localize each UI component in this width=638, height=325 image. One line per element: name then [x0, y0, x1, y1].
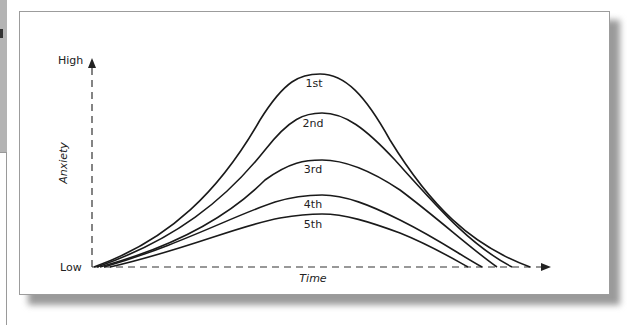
curve-label-4th: 4th [304, 198, 322, 211]
x-axis-arrow-icon [541, 263, 551, 271]
curve-label-3rd: 3rd [304, 163, 322, 176]
curve-label-2nd: 2nd [303, 117, 324, 130]
curve-label-1st: 1st [305, 77, 323, 90]
curve-label-5th: 5th [304, 218, 322, 231]
y-high-label: High [58, 54, 83, 67]
x-axis-label: Time [299, 272, 326, 285]
y-axis-label: Anxiety [57, 142, 70, 185]
curve-4th [104, 195, 482, 267]
y-low-label: Low [60, 261, 82, 274]
y-axis-arrow-icon [88, 58, 96, 68]
curve-5th [110, 214, 468, 267]
curve-2nd [97, 113, 512, 267]
anxiety-curves-diagram: High Low Anxiety Time 1st 2nd 3rd 4th 5t… [0, 0, 638, 325]
